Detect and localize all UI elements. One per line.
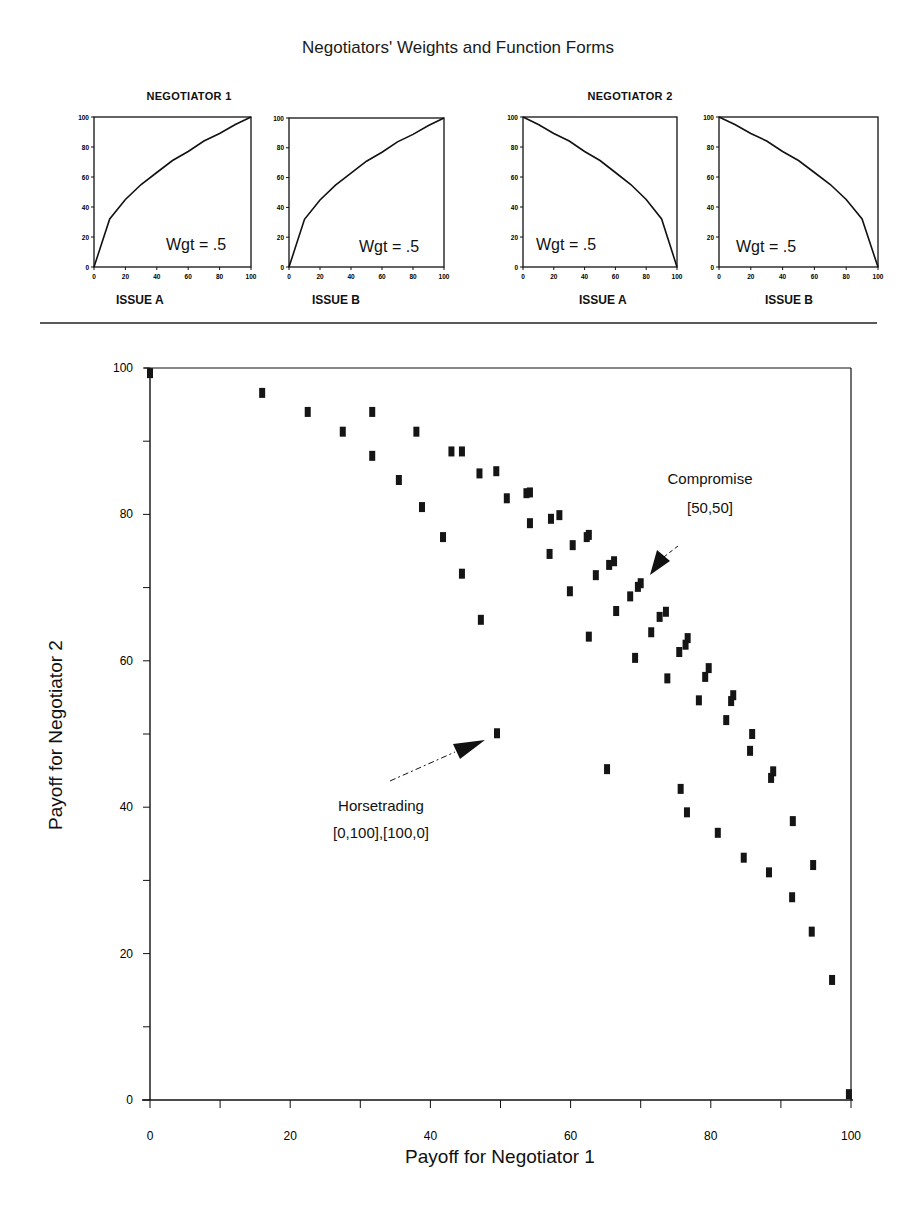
data-point [527, 518, 533, 528]
data-point [459, 569, 465, 579]
y-tick-label: 80 [277, 144, 285, 151]
y-tick-label: 40 [120, 800, 134, 814]
x-tick-label: 0 [287, 273, 291, 280]
compromise-annotation: Compromise [50,50] [640, 470, 780, 516]
horsetrading-arrow-head [453, 740, 485, 759]
x-tick-label: 40 [347, 273, 355, 280]
horsetrading-label: Horsetrading [296, 797, 466, 814]
data-point [259, 388, 265, 398]
y-tick-label: 40 [277, 204, 285, 211]
x-tick-label: 80 [704, 1129, 718, 1143]
data-point [676, 647, 682, 657]
data-point [305, 407, 311, 417]
y-tick-label: 60 [707, 174, 715, 181]
y-tick-label: 20 [511, 234, 519, 241]
data-point [494, 728, 500, 738]
x-tick-label: 100 [439, 273, 450, 280]
data-point [747, 746, 753, 756]
data-point [749, 729, 755, 739]
n1-issue-b-label: ISSUE B [312, 293, 360, 307]
y-tick-label: 100 [78, 114, 89, 121]
data-point [604, 764, 610, 774]
n1-issue-b-weight: Wgt = .5 [359, 238, 419, 256]
data-point [663, 607, 669, 617]
x-tick-label: 60 [378, 273, 386, 280]
data-point [448, 446, 454, 456]
data-point [829, 975, 835, 985]
x-tick-label: 60 [811, 273, 819, 280]
x-tick-label: 20 [316, 273, 324, 280]
y-tick-label: 60 [511, 174, 519, 181]
x-tick-label: 100 [672, 273, 683, 280]
x-tick-label: 0 [147, 1129, 154, 1143]
data-point [715, 828, 721, 838]
y-tick-label: 40 [511, 204, 519, 211]
x-tick-label: 0 [92, 273, 96, 280]
compromise-coords: [50,50] [640, 499, 780, 516]
y-tick-label: 80 [511, 144, 519, 151]
compromise-label: Compromise [640, 470, 780, 487]
data-point [685, 633, 691, 643]
data-point [846, 1089, 852, 1099]
y-tick-label: 60 [277, 174, 285, 181]
x-tick-label: 20 [747, 273, 755, 280]
y-tick-label: 0 [126, 1093, 133, 1107]
horsetrading-arrow-line [390, 752, 455, 781]
y-tick-label: 100 [507, 114, 518, 121]
data-point [476, 468, 482, 478]
x-tick-label: 100 [841, 1129, 861, 1143]
n2-issue-a-label: ISSUE A [579, 293, 627, 307]
n1-issue-a-label: ISSUE A [116, 293, 164, 307]
x-tick-label: 20 [122, 273, 130, 280]
data-point [730, 690, 736, 700]
data-point [684, 807, 690, 817]
data-point [741, 853, 747, 863]
utility-panel-3: 002020404060608080100100 [507, 114, 683, 281]
data-point [809, 927, 815, 937]
y-tick-label: 20 [82, 234, 90, 241]
x-tick-label: 80 [843, 273, 851, 280]
n2-issue-b-label: ISSUE B [765, 293, 813, 307]
x-axis-title: Payoff for Negotiator 1 [0, 1146, 916, 1168]
n1-issue-a-weight: Wgt = .5 [166, 236, 226, 254]
data-point [369, 451, 375, 461]
data-point [478, 615, 484, 625]
data-point [702, 672, 708, 682]
data-point [810, 860, 816, 870]
data-point [664, 673, 670, 683]
n2-issue-a-weight: Wgt = .5 [536, 236, 596, 254]
y-tick-label: 0 [514, 264, 518, 271]
data-point [504, 493, 510, 503]
data-point [567, 586, 573, 596]
y-tick-label: 40 [707, 204, 715, 211]
x-tick-label: 60 [612, 273, 620, 280]
y-axis-title: Payoff for Negotiator 2 [45, 640, 67, 830]
data-point [586, 530, 592, 540]
data-point [657, 612, 663, 622]
compromise-arrow-head [650, 550, 670, 575]
data-point [627, 591, 633, 601]
data-point [493, 466, 499, 476]
y-tick-label: 60 [120, 654, 134, 668]
x-tick-label: 40 [424, 1129, 438, 1143]
data-point [548, 514, 554, 524]
data-point [638, 578, 644, 588]
x-tick-label: 20 [284, 1129, 298, 1143]
y-tick-label: 60 [82, 174, 90, 181]
y-tick-label: 80 [707, 144, 715, 151]
x-tick-label: 80 [216, 273, 224, 280]
y-tick-label: 40 [82, 204, 90, 211]
y-tick-label: 20 [277, 234, 285, 241]
x-tick-label: 80 [409, 273, 417, 280]
x-tick-label: 60 [185, 273, 193, 280]
horsetrading-annotation: Horsetrading [0,100],[100,0] [296, 797, 466, 841]
data-point [413, 427, 419, 437]
y-tick-label: 80 [82, 144, 90, 151]
x-tick-label: 100 [246, 273, 257, 280]
data-point [419, 502, 425, 512]
data-point [678, 784, 684, 794]
x-tick-label: 100 [873, 273, 884, 280]
x-tick-label: 80 [643, 273, 651, 280]
y-tick-label: 80 [120, 507, 134, 521]
data-point [459, 446, 465, 456]
